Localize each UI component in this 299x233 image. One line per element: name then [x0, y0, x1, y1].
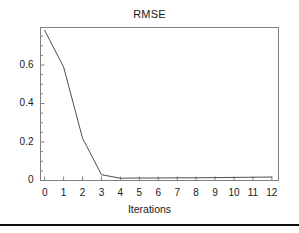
bottom-divider: [0, 224, 299, 226]
rmse-line-series: [45, 30, 272, 178]
x-axis-title: Iterations: [0, 203, 299, 215]
y-tick-label: 0.6: [2, 59, 34, 70]
y-tick-label: 0.4: [2, 97, 34, 108]
y-tick-label: 0.2: [2, 136, 34, 147]
y-tick-label: 0: [2, 174, 34, 185]
x-tick-label: 12: [260, 187, 284, 198]
plot-frame: [41, 28, 279, 181]
plot-canvas: [0, 0, 299, 233]
chart-figure: RMSE 00.20.40.6 0123456789101112 Iterati…: [0, 0, 299, 233]
